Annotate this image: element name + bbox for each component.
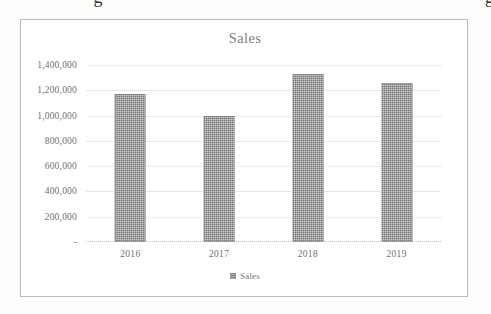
legend-entry-label: Sales [240,271,260,281]
y-axis-tick-label: 1,000,000 [37,111,77,121]
bar-2016[interactable] [115,94,146,242]
chart-legend[interactable]: Sales [21,271,469,281]
x-axis-tick-label-2017: 2017 [209,249,229,259]
bar-slot: 2016 [86,65,175,242]
chart-object-frame[interactable]: Sales 1,400,0001,200,0001,000,000800,000… [20,19,468,297]
bar-2018[interactable] [292,74,323,242]
clipped-heading-fragment: g g [0,0,491,8]
y-axis-tick-label: 1,400,000 [37,60,77,70]
bar-2019[interactable] [381,83,412,242]
y-axis-tick-label: - [74,237,77,247]
x-axis-tick-label-2018: 2018 [298,249,318,259]
y-axis-tick-label: 400,000 [45,186,77,196]
bar-slot: 2019 [352,65,441,242]
series-color-swatch-icon [230,273,236,279]
y-axis-tick-label: 800,000 [45,136,77,146]
y-axis-tick-label: 600,000 [45,161,77,171]
bar-2017[interactable] [204,116,235,242]
x-axis-tick-label-2019: 2019 [387,249,407,259]
bar-slot: 2018 [264,65,353,242]
x-axis-tick-label-2016: 2016 [120,249,140,259]
plot-area[interactable]: 1,400,0001,200,0001,000,000800,000600,00… [86,65,441,242]
y-axis-tick-label: 200,000 [45,212,77,222]
chart-screenshot: g g Sales 1,400,0001,200,0001,000,000800… [0,0,491,314]
bar-series-sales[interactable]: 2016201720182019 [86,65,441,242]
chart-title: Sales [21,30,469,47]
y-axis-tick-label: 1,200,000 [37,85,77,95]
bar-slot: 2017 [175,65,264,242]
